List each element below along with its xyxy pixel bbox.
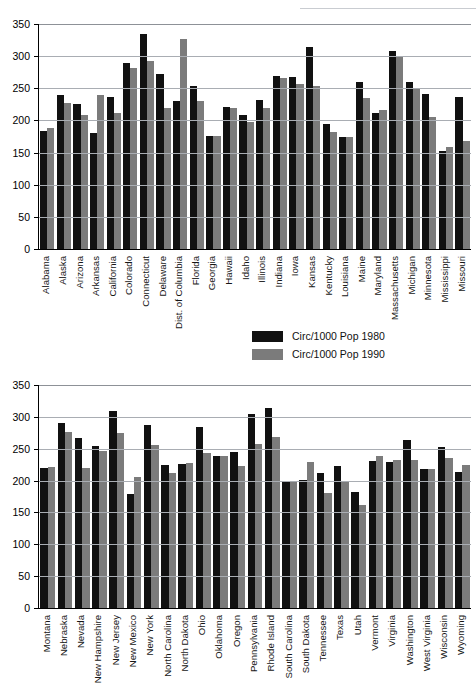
bar-group (122, 24, 139, 249)
bar (64, 103, 71, 249)
bar (376, 456, 383, 608)
x-axis-tick-label: Maryland (373, 256, 383, 295)
x-axis-tick-label: Kentucky (324, 256, 334, 295)
bar (439, 151, 446, 249)
y-axis-labels-bottom: 050100150200250300350 (0, 370, 34, 695)
plot-area-bottom (38, 385, 471, 609)
x-axis-tick-label: Maine (357, 256, 367, 282)
bar (147, 61, 154, 249)
bar (359, 505, 366, 608)
x-axis-tick-label: Colorado (124, 256, 134, 295)
x-axis-tick-label: New Hampshire (93, 615, 103, 683)
bar-group (205, 24, 222, 249)
bar (356, 82, 363, 249)
gridline (39, 120, 471, 121)
bar (462, 465, 469, 608)
bar (220, 456, 227, 608)
bar (411, 460, 418, 608)
bar (75, 438, 82, 608)
gridline (39, 512, 471, 513)
bar-group (39, 385, 56, 608)
legend-item: Circ/1000 Pop 1990 (252, 349, 385, 360)
y-axis-tick-label: 50 (18, 212, 30, 222)
x-axis-tick-label: West Virginia (422, 615, 432, 671)
x-axis-tick-label: Nebraska (59, 615, 69, 656)
bar-group (229, 385, 246, 608)
bar (151, 445, 158, 608)
bar (178, 464, 185, 608)
bar-group (188, 24, 205, 249)
bar-group (371, 24, 388, 249)
bar (82, 468, 89, 608)
y-axis-tick-label: 0 (24, 244, 30, 254)
x-axis-tick-label: New Mexico (128, 615, 138, 667)
bar (429, 117, 436, 249)
bar (213, 456, 220, 608)
bar-group (160, 385, 177, 608)
bar-group (91, 385, 108, 608)
bar (164, 108, 171, 249)
bar (307, 462, 314, 608)
bar (372, 113, 379, 249)
bar (47, 128, 54, 250)
y-axis-tick-label: 100 (12, 539, 30, 549)
x-axis-tick-label: Wisconsin (439, 615, 449, 659)
x-axis-tick-label: North Dakota (180, 615, 190, 672)
bar (186, 463, 193, 608)
bar-group (281, 385, 298, 608)
bar-group (436, 385, 453, 608)
bar-group (305, 24, 322, 249)
bar (248, 414, 255, 608)
legend-swatch (252, 349, 283, 360)
bar (255, 444, 262, 608)
bar (169, 473, 176, 608)
bar-group (385, 385, 402, 608)
bar-group (74, 385, 91, 608)
bar (389, 51, 396, 249)
bar (265, 408, 272, 608)
y-axis-tick-label: 0 (24, 603, 30, 613)
bar (123, 63, 130, 249)
gridline (39, 56, 471, 57)
chart-legend: Circ/1000 Pop 1980Circ/1000 Pop 1990 (252, 331, 385, 367)
bar-group (298, 385, 315, 608)
chart-page: 050100150200250300350 AlabamaAlaskaArizo… (0, 0, 476, 695)
y-axis-tick-label: 150 (12, 507, 30, 517)
gridline (39, 24, 471, 25)
bar (161, 465, 168, 608)
gridline (39, 481, 471, 482)
bar-group (404, 24, 421, 249)
chart-bottom: 050100150200250300350 MontanaNebraskaNev… (0, 370, 476, 695)
bar (306, 47, 313, 250)
legend-item: Circ/1000 Pop 1980 (252, 331, 385, 342)
gridline (39, 576, 471, 577)
x-axis-tick-label: Pennsylvania (249, 615, 259, 672)
x-axis-tick-label: Vermont (370, 615, 380, 651)
gridline (39, 449, 471, 450)
bar (90, 133, 97, 249)
x-axis-tick-label: Montana (42, 615, 52, 652)
y-axis-tick-label: 300 (12, 412, 30, 422)
bar (134, 477, 141, 608)
bar (197, 101, 204, 250)
x-axis-tick-label: Oregon (232, 615, 242, 647)
bar-group (177, 385, 194, 608)
x-axis-tick-label: Arizona (75, 256, 85, 289)
bar (413, 88, 420, 249)
bar (438, 447, 445, 608)
x-axis-tick-label: Alabama (41, 256, 51, 294)
gridline (39, 185, 471, 186)
x-axis-tick-label: South Carolina (284, 615, 294, 678)
legend-label: Circ/1000 Pop 1990 (292, 349, 385, 360)
bar (190, 86, 197, 249)
bar-group (195, 385, 212, 608)
bar-group (246, 385, 263, 608)
gridline (39, 544, 471, 545)
x-axis-tick-label: Washington (405, 615, 415, 665)
bar-group (238, 24, 255, 249)
bar-group (125, 385, 142, 608)
bar (144, 425, 151, 608)
x-axis-tick-label: Florida (191, 256, 201, 285)
bar-group (367, 385, 384, 608)
x-axis-tick-label: South Dakota (301, 615, 311, 673)
